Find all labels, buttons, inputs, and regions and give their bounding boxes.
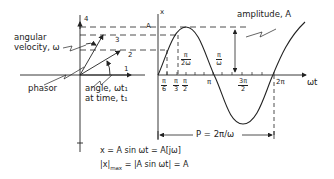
angle-label-line1: angle, ωt₁ [85,84,128,93]
angular-velocity-label-line2: velocity, ω [14,43,60,52]
phasor-label: phasor [28,84,57,93]
position-1: 1 [124,65,128,74]
tick-pi-over-6: π 6 [161,78,167,93]
sine-axes [158,14,306,140]
annotation-pi-over-w: π ω [216,52,222,67]
amplitude-label: amplitude, A [237,10,291,19]
tick-pi-over-3: π 3 [173,78,179,93]
tick-pi: π [207,78,211,87]
amplitude-marker-A: A [146,22,151,31]
period-label: P = 2π/ω [196,130,234,139]
position-3: 3 [115,36,119,45]
projection-dashes [80,27,248,50]
position-4: 4 [84,15,88,24]
tick-2pi: 2π [276,78,285,87]
x-axis-label: ωt [307,78,317,87]
tick-pi-over-2: π 2 [182,78,188,93]
equation-line-2: |x|max = |A sin ωt| = A [100,160,188,171]
angular-velocity-label-line1: angular [14,33,46,42]
position-2: 2 [128,51,132,60]
sine-curve [158,22,305,124]
annotation-pi-over-2w: π 2ω [181,52,191,67]
angle-label-line2: at time, t₁ [85,94,128,103]
y-axis-label: x [160,8,164,17]
tick-3pi-over-2: 3π 2 [238,78,248,93]
equation-line-1: x = A sin ωt = A[jω] [100,146,181,155]
